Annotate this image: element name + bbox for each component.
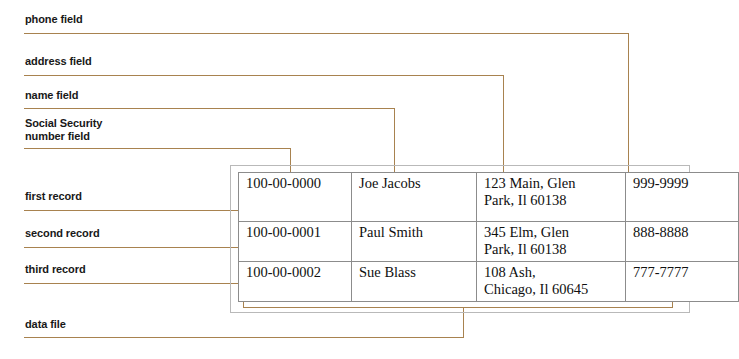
callout-label-name-field: name field xyxy=(25,89,78,102)
callout-label-third-record: third record xyxy=(25,263,86,276)
leader-first-record-horizontal xyxy=(24,210,245,211)
cell-name: Joe Jacobs xyxy=(352,173,477,222)
leader-ssn-horizontal xyxy=(24,148,291,149)
callout-label-data-file: data file xyxy=(25,318,66,331)
table-row: 100-00-0002 Sue Blass 108 Ash, Chicago, … xyxy=(239,262,739,302)
callout-label-phone-field: phone field xyxy=(25,13,83,26)
table-row: 100-00-0000 Joe Jacobs 123 Main, Glen Pa… xyxy=(239,173,739,222)
callout-label-ssn-field-line1: Social Security xyxy=(25,117,102,130)
leader-phone-vertical xyxy=(628,33,629,172)
leader-third-record-horizontal xyxy=(24,283,245,284)
cell-address: 345 Elm, Glen Park, Il 60138 xyxy=(477,222,626,262)
cell-ssn: 100-00-0001 xyxy=(239,222,352,262)
callout-label-first-record: first record xyxy=(25,190,82,203)
leader-phone-horizontal xyxy=(24,33,629,34)
leader-data-file-horizontal xyxy=(24,337,464,338)
cell-address: 123 Main, Glen Park, Il 60138 xyxy=(477,173,626,222)
leader-second-record-horizontal xyxy=(24,247,245,248)
cell-phone: 888-8888 xyxy=(626,222,739,262)
callout-label-second-record: second record xyxy=(25,227,100,240)
cell-name: Sue Blass xyxy=(352,262,477,302)
callout-label-ssn-field-line2: number field xyxy=(25,130,90,143)
cell-phone: 777-7777 xyxy=(626,262,739,302)
cell-name: Paul Smith xyxy=(352,222,477,262)
leader-address-vertical xyxy=(503,75,504,172)
cell-ssn: 100-00-0000 xyxy=(239,173,352,222)
cell-address: 108 Ash, Chicago, Il 60645 xyxy=(477,262,626,302)
cell-phone: 999-9999 xyxy=(626,173,739,222)
cell-ssn: 100-00-0002 xyxy=(239,262,352,302)
leader-name-horizontal xyxy=(24,108,395,109)
callout-label-address-field: address field xyxy=(25,55,92,68)
leader-address-horizontal xyxy=(24,75,504,76)
records-table: 100-00-0000 Joe Jacobs 123 Main, Glen Pa… xyxy=(238,172,739,302)
table-row: 100-00-0001 Paul Smith 345 Elm, Glen Par… xyxy=(239,222,739,262)
leader-name-vertical xyxy=(394,108,395,172)
